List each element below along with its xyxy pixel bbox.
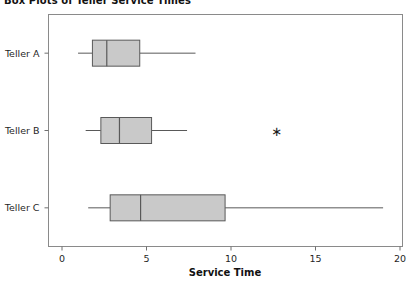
box-plot-figure: Box Plots of Teller Service Times Teller… — [0, 0, 420, 283]
x-tick-label: 15 — [309, 253, 321, 264]
x-tick-label: 0 — [59, 253, 65, 264]
box-iqr — [110, 195, 225, 221]
plot-canvas: Teller ATeller BTeller C 05101520 ∗ Serv… — [0, 0, 420, 283]
x-tick-label: 5 — [143, 253, 149, 264]
box-iqr — [101, 118, 152, 144]
box-series: ∗ — [78, 40, 383, 221]
box-iqr — [92, 40, 139, 66]
outlier-marker: ∗ — [271, 124, 282, 139]
y-axis: Teller ATeller BTeller C — [4, 48, 49, 214]
y-tick-label-teller-b: Teller B — [4, 125, 40, 136]
x-tick-label: 10 — [225, 253, 237, 264]
x-tick-label: 20 — [394, 253, 406, 264]
y-tick-label-teller-c: Teller C — [4, 202, 40, 213]
x-axis-title: Service Time — [189, 267, 262, 278]
y-tick-label-teller-a: Teller A — [4, 48, 40, 59]
x-axis: 05101520 — [59, 247, 406, 264]
box-plot-teller-a — [78, 40, 195, 66]
box-plot-teller-b: ∗ — [86, 118, 282, 144]
box-plot-teller-c — [88, 195, 383, 221]
